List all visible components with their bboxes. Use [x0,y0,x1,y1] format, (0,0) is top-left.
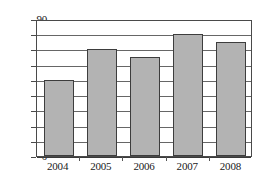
x-axis-tick-label: 2005 [80,160,122,172]
plot-area [36,20,252,157]
bar [44,80,74,156]
gridline [37,35,251,36]
y-axis-tick-mark [31,157,36,158]
x-axis-tick-label: 2008 [209,160,251,172]
bar-chart-figure: 0102030405060708090 20042005200620072008 [0,0,260,186]
bar [173,34,203,156]
gridline [37,157,251,158]
x-axis-tick-label: 2007 [166,160,208,172]
bar [130,57,160,156]
bar [87,49,117,156]
x-axis-tick-label: 2006 [123,160,165,172]
bar [216,42,246,156]
x-axis-tick-label: 2004 [37,160,79,172]
